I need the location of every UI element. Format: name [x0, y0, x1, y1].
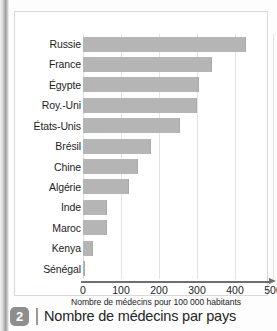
figure-doctors-per-country: RussieFranceÉgypteRoy.-UniÉtats-UnisBrés…: [0, 0, 277, 331]
x-tick-label-500: 500: [253, 284, 277, 296]
category-label-france: France: [19, 54, 81, 74]
gridline-500: [273, 34, 274, 279]
bar-alg-rie: [83, 179, 129, 194]
plot-area: [83, 34, 273, 279]
category-label-slot: Inde: [17, 197, 81, 217]
figure-caption-title: Nombre de médecins par pays: [44, 308, 236, 324]
category-label-slot: Chine: [17, 157, 81, 177]
figure-number-badge: 2: [10, 307, 29, 326]
x-tick-label-0: 0: [63, 284, 103, 296]
category-label-roy-uni: Roy.-Uni: [19, 95, 81, 115]
bar-roy-uni: [83, 98, 197, 113]
bar-russie: [83, 37, 246, 52]
category-label--tats-unis: États-Unis: [19, 116, 81, 136]
category-label-chine: Chine: [19, 157, 81, 177]
bar-row: [83, 157, 273, 177]
x-axis-arrow-icon: [269, 278, 276, 284]
bar-maroc: [83, 220, 107, 235]
category-label--gypte: Égypte: [19, 75, 81, 95]
bar-row: [83, 75, 273, 95]
category-label-alg-rie: Algérie: [19, 177, 81, 197]
bar-row: [83, 136, 273, 156]
category-label-s-n-gal: Sénégal: [19, 259, 81, 279]
bar-kenya: [83, 241, 93, 256]
bar-s-n-gal: [83, 261, 85, 276]
category-label-slot: États-Unis: [17, 116, 81, 136]
bar-row: [83, 197, 273, 217]
x-tick-label-200: 200: [139, 284, 179, 296]
bar-row: [83, 34, 273, 54]
category-label-slot: France: [17, 54, 81, 74]
bar-inde: [83, 200, 107, 215]
bar-br-sil: [83, 139, 151, 154]
x-tick-label-300: 300: [177, 284, 217, 296]
bar-france: [83, 57, 212, 72]
category-label-slot: Brésil: [17, 136, 81, 156]
bar-row: [83, 218, 273, 238]
category-label-kenya: Kenya: [19, 238, 81, 258]
category-label-slot: Maroc: [17, 218, 81, 238]
category-label-slot: Algérie: [17, 177, 81, 197]
category-label-russie: Russie: [19, 34, 81, 54]
category-label-inde: Inde: [19, 197, 81, 217]
bar-chine: [83, 159, 138, 174]
bar-row: [83, 116, 273, 136]
bar-row: [83, 54, 273, 74]
figure-caption: 2 Nombre de médecins par pays: [10, 303, 277, 329]
category-label-slot: Russie: [17, 34, 81, 54]
caption-divider: [36, 308, 38, 325]
bar-row: [83, 177, 273, 197]
category-label-slot: Sénégal: [17, 259, 81, 279]
chart-frame: RussieFranceÉgypteRoy.-UniÉtats-UnisBrés…: [14, 11, 268, 296]
bar-series: [83, 34, 273, 279]
category-axis-labels: RussieFranceÉgypteRoy.-UniÉtats-UnisBrés…: [17, 34, 81, 279]
category-label-slot: Kenya: [17, 238, 81, 258]
category-label-maroc: Maroc: [19, 218, 81, 238]
x-tick-label-100: 100: [101, 284, 141, 296]
bar--gypte: [83, 77, 199, 92]
category-label-slot: Roy.-Uni: [17, 95, 81, 115]
bar-row: [83, 95, 273, 115]
x-axis: [81, 280, 277, 283]
bar-row: [83, 259, 273, 279]
category-label-slot: Égypte: [17, 75, 81, 95]
x-tick-label-400: 400: [215, 284, 255, 296]
x-axis-tick-labels: 0100200300400500: [83, 284, 273, 298]
bar-row: [83, 238, 273, 258]
bar--tats-unis: [83, 118, 180, 133]
category-label-br-sil: Brésil: [19, 136, 81, 156]
x-axis-line: [81, 281, 271, 283]
